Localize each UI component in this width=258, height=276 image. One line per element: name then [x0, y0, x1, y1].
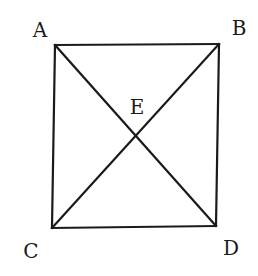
label-point-a: A — [32, 18, 48, 42]
label-point-d: D — [223, 236, 239, 260]
segment-bd — [216, 44, 219, 226]
square-diagonals-diagram: A B C D E — [0, 0, 258, 276]
segment-ab — [55, 44, 219, 45]
segment-ca — [52, 45, 55, 228]
segment-dc — [52, 226, 216, 228]
label-point-e: E — [130, 95, 145, 119]
label-point-b: B — [232, 16, 247, 40]
label-point-c: C — [23, 239, 38, 263]
